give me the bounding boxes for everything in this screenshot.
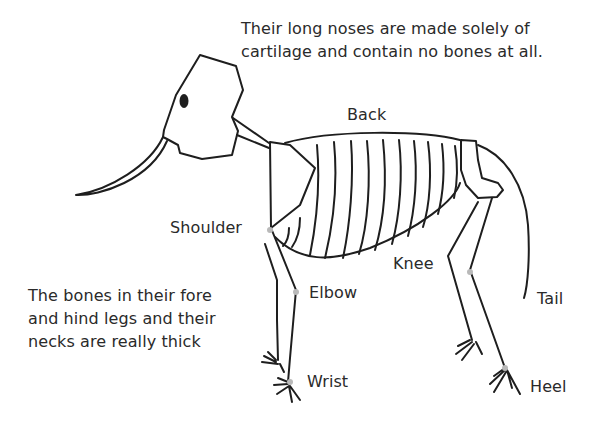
- knee-joint: [467, 269, 473, 275]
- elephant-skeleton-illustration: [0, 0, 604, 432]
- spine: [285, 133, 460, 143]
- shoulder-joint: [267, 227, 273, 233]
- pelvis: [461, 140, 503, 198]
- hind-leg-front: [448, 202, 478, 340]
- neck-bottom: [237, 135, 269, 148]
- skull: [163, 55, 243, 159]
- eye-icon: [180, 94, 189, 108]
- scapula: [270, 142, 315, 228]
- front-leg-inner: [265, 244, 278, 360]
- elbow-joint: [293, 289, 299, 295]
- tusk: [76, 137, 167, 195]
- heel-joint: [502, 365, 508, 371]
- wrist-joint: [287, 379, 293, 385]
